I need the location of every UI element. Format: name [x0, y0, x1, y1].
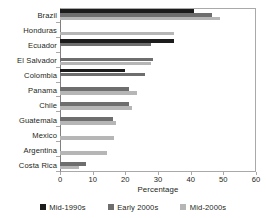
bar	[60, 166, 79, 170]
chart-row: Argentina	[0, 142, 266, 157]
category-label: Mexico	[32, 130, 57, 139]
bar-group	[60, 142, 256, 157]
category-label: Chile	[39, 100, 57, 109]
category-label: Argentina	[24, 145, 57, 154]
chart-row: El Salvador	[0, 53, 266, 68]
bar	[60, 91, 137, 95]
bar	[60, 73, 145, 77]
category-label: Costa Rica	[19, 160, 57, 169]
legend-item: Early 2000s	[108, 203, 159, 212]
bar-group	[60, 83, 256, 98]
legend-item: Mid-2000s	[180, 203, 226, 212]
bar-group	[60, 127, 256, 142]
chart-row: Mexico	[0, 127, 266, 142]
legend-swatch-icon	[108, 204, 114, 210]
chart-row: Panama	[0, 83, 266, 98]
chart-row: Colombia	[0, 68, 266, 83]
bar-group	[60, 97, 256, 112]
chart-row: Brazil	[0, 8, 266, 23]
bar-group	[60, 38, 256, 53]
bar	[60, 136, 114, 140]
chart-row: Ecuador	[0, 38, 266, 53]
bar	[60, 106, 132, 110]
bar	[60, 43, 151, 47]
chart-rows: BrazilHondurasEcuadorEl SalvadorColombia…	[0, 8, 266, 172]
x-axis-tick-label: 10	[88, 175, 96, 185]
legend-label: Early 2000s	[117, 203, 158, 212]
chart-row: Chile	[0, 97, 266, 112]
legend-label: Mid-1990s	[49, 203, 85, 212]
bar-chart: BrazilHondurasEcuadorEl SalvadorColombia…	[0, 0, 266, 218]
bar-group	[60, 53, 256, 68]
bar-group	[60, 68, 256, 83]
category-label: El Salvador	[17, 56, 57, 65]
category-label: Honduras	[23, 26, 57, 35]
category-label: Guatemala	[19, 115, 57, 124]
bar-group	[60, 8, 256, 23]
bar	[60, 121, 116, 125]
x-axis-tick-label: 40	[186, 175, 194, 185]
cropped-caption-artifact	[8, 0, 68, 5]
bar	[60, 62, 151, 66]
legend-swatch-icon	[180, 204, 186, 210]
legend-label: Mid-2000s	[190, 203, 226, 212]
x-axis-tick-label: 0	[58, 175, 62, 185]
x-axis-tick-label: 20	[121, 175, 129, 185]
legend-swatch-icon	[40, 204, 46, 210]
chart-legend: Mid-1990sEarly 2000sMid-2000s	[0, 200, 266, 214]
category-label: Panama	[28, 85, 57, 94]
bar	[60, 151, 107, 155]
chart-row: Honduras	[0, 23, 266, 38]
chart-row: Guatemala	[0, 112, 266, 127]
bar-group	[60, 157, 256, 172]
category-label: Brazil	[37, 11, 57, 20]
category-label: Colombia	[24, 71, 57, 80]
category-label: Ecuador	[28, 41, 57, 50]
x-axis-tick-label: 60	[252, 175, 260, 185]
bar-group	[60, 112, 256, 127]
x-axis-tick-label: 30	[154, 175, 162, 185]
bar-group	[60, 23, 256, 38]
chart-row: Costa Rica	[0, 157, 266, 172]
legend-item: Mid-1990s	[40, 203, 86, 212]
bar	[60, 32, 174, 36]
x-axis-tick-label: 50	[219, 175, 227, 185]
bar	[60, 17, 220, 21]
x-axis-title: Percentage	[60, 185, 256, 194]
